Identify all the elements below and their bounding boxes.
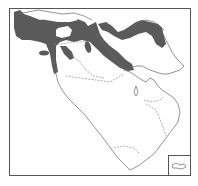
arabia-south-coast (130, 104, 180, 170)
gulf-coast (124, 70, 178, 104)
border-syria-iraq (72, 56, 104, 78)
border-uae (144, 96, 164, 102)
range-north-iran (98, 20, 166, 48)
distribution-map (0, 0, 198, 186)
border-saudi-yemen (114, 146, 140, 154)
range-levant (60, 46, 74, 60)
range-areas (14, 10, 166, 74)
iran-east-border (164, 36, 184, 66)
border-saudi-oman (146, 104, 166, 136)
inset-box (169, 156, 191, 176)
levant-coast (52, 58, 130, 170)
inset-island (172, 163, 186, 169)
border-saudi-iraq (66, 74, 124, 82)
qatar-peninsula (134, 86, 138, 96)
range-cyprus (39, 51, 49, 56)
